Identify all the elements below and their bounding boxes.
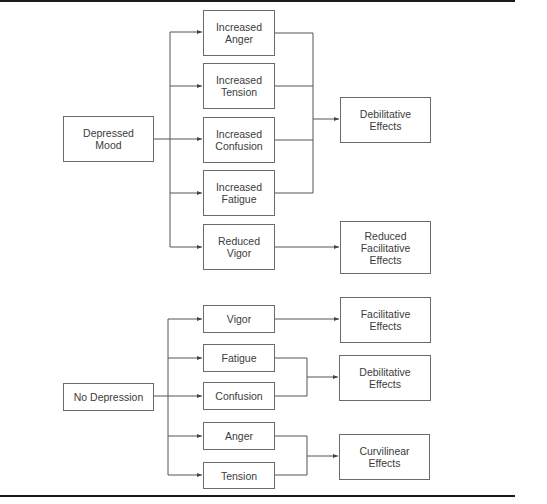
node-label: Anger — [225, 430, 253, 442]
node-label: Increased Fatigue — [216, 181, 262, 205]
node-label: Debilitative Effects — [360, 108, 411, 132]
node-reduced-facilitative-effects: Reduced Facilitative Effects — [340, 221, 431, 274]
node-label: Depressed Mood — [83, 127, 134, 151]
node-label: Reduced Vigor — [218, 235, 260, 259]
node-increased-anger: Increased Anger — [203, 10, 275, 56]
node-tension: Tension — [203, 462, 275, 489]
node-label: Curvilinear Effects — [359, 445, 409, 469]
node-fatigue: Fatigue — [203, 344, 275, 372]
node-label: Tension — [221, 470, 257, 482]
node-label: Vigor — [227, 313, 251, 325]
node-increased-confusion: Increased Confusion — [203, 117, 275, 163]
node-label: Facilitative Effects — [361, 308, 411, 332]
node-reduced-vigor: Reduced Vigor — [203, 224, 275, 270]
node-label: Increased Anger — [216, 21, 262, 45]
node-confusion: Confusion — [203, 382, 275, 410]
node-vigor: Vigor — [203, 305, 275, 333]
node-depressed-mood: Depressed Mood — [63, 116, 154, 162]
node-label: Increased Tension — [216, 74, 262, 98]
node-debilitative-effects-bottom: Debilitative Effects — [339, 355, 431, 401]
node-label: Debilitative Effects — [359, 366, 410, 390]
node-facilitative-effects: Facilitative Effects — [340, 297, 431, 343]
node-increased-tension: Increased Tension — [203, 63, 275, 109]
node-increased-fatigue: Increased Fatigue — [203, 170, 275, 216]
node-no-depression: No Depression — [63, 383, 154, 411]
node-label: Confusion — [215, 390, 262, 402]
node-anger: Anger — [203, 422, 275, 450]
node-curvilinear-effects: Curvilinear Effects — [339, 434, 430, 480]
node-label: Increased Confusion — [215, 128, 262, 152]
node-label: No Depression — [74, 391, 143, 403]
node-debilitative-effects-top: Debilitative Effects — [340, 97, 431, 143]
node-label: Fatigue — [221, 352, 256, 364]
node-label: Reduced Facilitative Effects — [361, 230, 411, 266]
